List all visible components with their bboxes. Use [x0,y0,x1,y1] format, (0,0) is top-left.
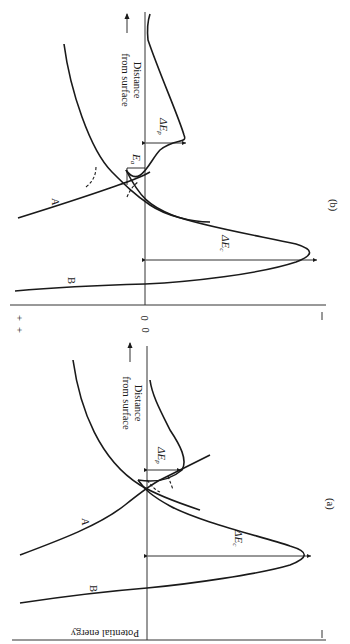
distance-label: Distance from surface [121,376,144,430]
curve-b [15,170,310,291]
potential-energy-figure: + 0 Distance from surface B A Ea ΔEp [0,0,350,644]
delta-ep-label: ΔEp [154,446,168,464]
distance-label: Distance from surface [120,53,143,107]
panel-a-label: (a) [324,498,336,510]
curve-a-label: A [50,198,61,206]
curve-a-upper [73,360,200,510]
curve-b-label: B [66,277,77,284]
curve-b-label: B [88,585,99,592]
panel-a: Potential energy + 0 Distance from surfa… [12,327,336,640]
curve-b [20,480,304,603]
crossover-dash-2 [168,476,173,490]
svg-text:Distance: Distance [132,62,143,99]
tick-plus: + [14,327,25,333]
delta-ep-label: ΔEp [156,117,170,135]
delta-ec-label: ΔEc [218,234,232,252]
svg-text:from surface: from surface [121,376,132,430]
potential-energy-label: Potential energy [70,628,139,639]
crossover-dash-1 [86,166,96,187]
curve-a-label: A [80,518,91,526]
delta-ec-label: ΔEc [231,529,245,547]
tick-zero: 0 [139,315,150,320]
panel-b-label: (b) [327,199,339,212]
ea-label: Ea [129,153,143,165]
svg-text:Distance: Distance [133,385,144,422]
tick-zero: 0 [140,327,151,332]
svg-text:from surface: from surface [120,53,131,107]
tick-plus: + [14,315,25,321]
panel-b: + 0 Distance from surface B A Ea ΔEp [10,12,339,321]
curve-a [20,455,210,555]
